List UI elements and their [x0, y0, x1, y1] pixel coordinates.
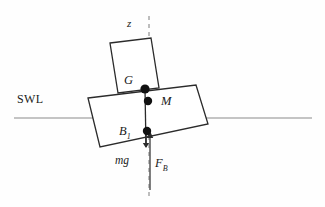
- label-f-subscript: B: [163, 164, 168, 173]
- label-f-base: F: [155, 156, 163, 170]
- z-axis-label: z: [127, 18, 131, 29]
- point-marker-m: [144, 97, 152, 105]
- label-metacentre-m: M: [161, 95, 171, 108]
- stability-diagram-figure: SWL z G M B1 mg FB: [0, 0, 325, 207]
- label-b-base: B: [119, 124, 127, 138]
- still-water-line-label: SWL: [17, 93, 44, 105]
- superstructure-rectangle: [110, 38, 159, 93]
- point-marker-b1: [143, 127, 151, 135]
- label-b-subscript: 1: [127, 132, 131, 141]
- label-weight-force-mg: mg: [115, 155, 129, 167]
- point-marker-g: [140, 84, 149, 93]
- label-centre-of-buoyancy-b1: B1: [119, 125, 131, 141]
- weight-force-arrowhead: [143, 143, 149, 148]
- label-centre-of-gravity-g: G: [124, 74, 133, 87]
- label-buoyancy-force-fb: FB: [155, 157, 168, 173]
